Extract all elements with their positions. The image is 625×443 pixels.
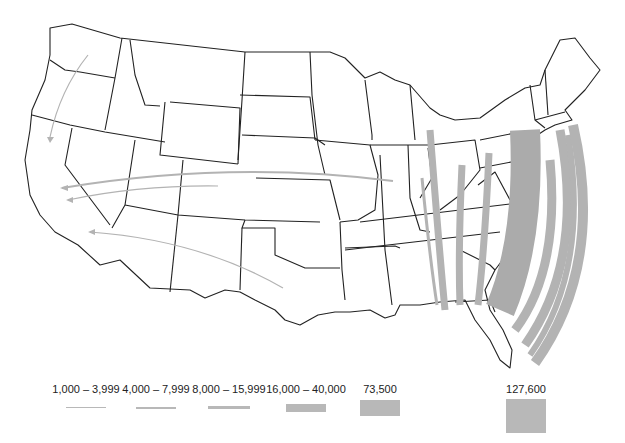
legend-label: 16,000 – 40,000	[260, 383, 352, 395]
legend-label: 1,000 – 3,999	[48, 383, 124, 395]
legend-label: 4,000 – 7,999	[118, 383, 194, 395]
legend-item-4: 16,000 – 40,000	[260, 383, 352, 412]
legend-item-2: 4,000 – 7,999	[118, 383, 194, 409]
legend-label: 127,600	[488, 383, 564, 395]
legend-swatch	[286, 404, 326, 412]
flow-ma-fl	[535, 125, 583, 363]
legend-label: 8,000 – 15,999	[190, 383, 268, 395]
legend-swatch	[360, 400, 400, 416]
legend-swatch	[66, 407, 106, 408]
legend-item-5: 73,500	[342, 383, 418, 416]
legend-swatch	[208, 406, 250, 409]
us-migration-map	[0, 0, 625, 443]
legend-item-1: 1,000 – 3,999	[48, 383, 124, 408]
legend-item-3: 8,000 – 15,999	[190, 383, 268, 409]
legend: 1,000 – 3,999 4,000 – 7,999 8,000 – 15,9…	[0, 383, 625, 443]
flow-oh-fl	[459, 165, 462, 305]
legend-swatch	[136, 407, 176, 409]
legend-item-6: 127,600	[488, 383, 564, 433]
legend-swatch	[506, 399, 546, 433]
legend-label: 73,500	[342, 383, 418, 395]
